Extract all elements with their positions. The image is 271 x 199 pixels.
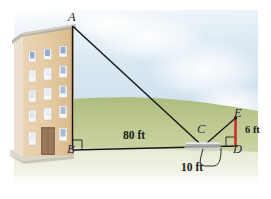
figure-canvas: A B C D E 80 ft 6 ft 10 ft <box>0 0 271 199</box>
building-door <box>41 127 55 155</box>
point-label-A: A <box>68 11 76 24</box>
point-label-C: C <box>197 123 205 136</box>
point-label-D: D <box>233 143 242 156</box>
dimension-label-base: 80 ft <box>123 130 145 142</box>
point-label-B: B <box>67 143 75 156</box>
building-side-face <box>14 37 23 157</box>
cloud-shape <box>68 8 148 40</box>
diagram-svg <box>0 0 271 199</box>
building-wall-edge <box>69 27 74 155</box>
dimension-label-mirror-distance: 10 ft <box>181 162 203 174</box>
point-label-E: E <box>234 107 242 120</box>
dimension-label-person-height: 6 ft <box>245 125 260 136</box>
